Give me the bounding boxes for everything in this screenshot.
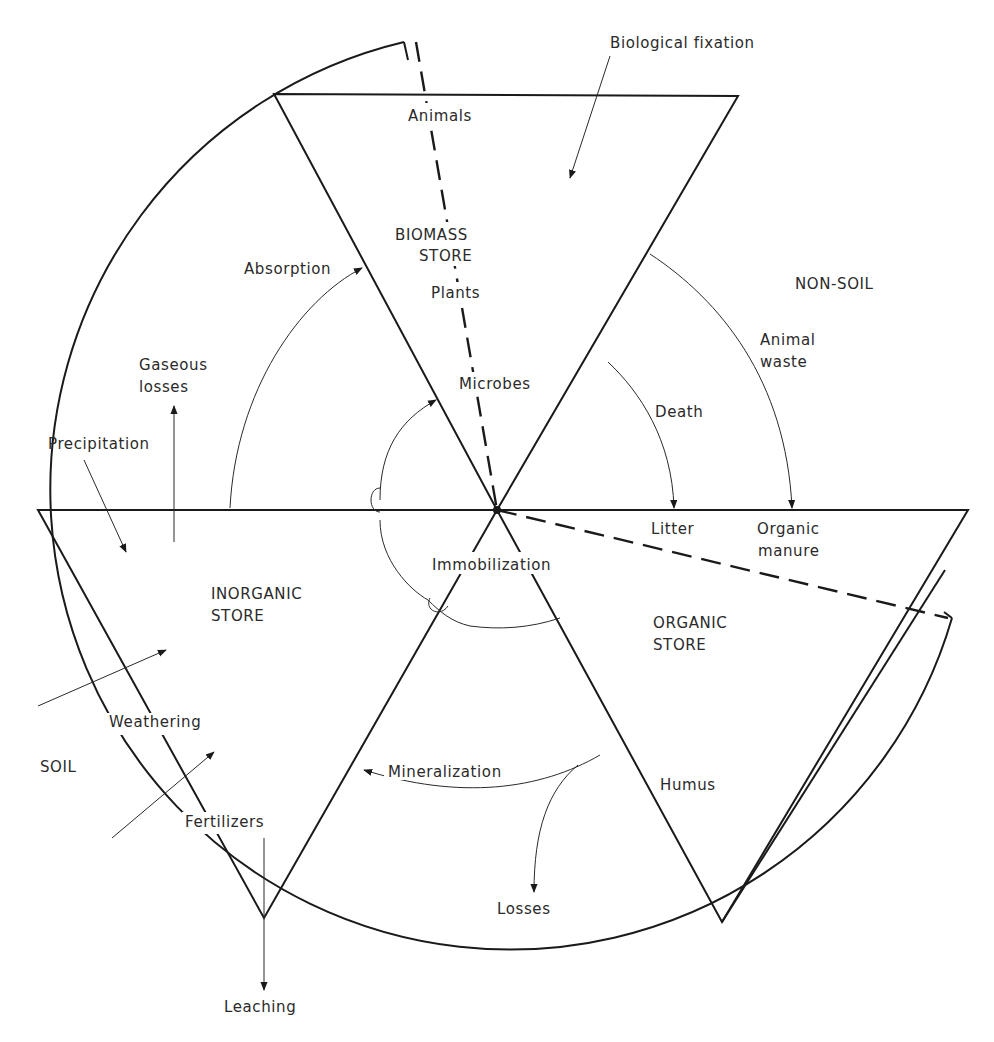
non-soil-label: NON-SOIL bbox=[795, 275, 874, 293]
precipitation-label: Precipitation bbox=[48, 435, 150, 453]
svg-text:Plants: Plants bbox=[431, 284, 480, 302]
center-node bbox=[493, 506, 501, 514]
svg-text:Weathering: Weathering bbox=[109, 713, 201, 731]
inner-loop-bump-left bbox=[371, 488, 380, 512]
immobilization-label: Immobilization bbox=[428, 552, 570, 574]
losses-label: Losses bbox=[497, 900, 551, 918]
weathering-arrow bbox=[38, 650, 166, 706]
microbe-uptake-arrow bbox=[380, 400, 436, 500]
svg-text:STORE: STORE bbox=[419, 247, 472, 265]
svg-text:Organic: Organic bbox=[757, 520, 820, 538]
biomass-store-wedge bbox=[274, 94, 738, 510]
plants-label: Plants bbox=[428, 282, 492, 302]
svg-text:Humus: Humus bbox=[660, 776, 716, 794]
animal-waste-label-1: Animal bbox=[760, 331, 816, 349]
litter-label: Litter bbox=[648, 520, 704, 540]
biomass-store-label: BIOMASS STORE bbox=[392, 222, 488, 266]
outer-boundary-end-top bbox=[404, 42, 408, 60]
organic-manure-label: Organic manure bbox=[754, 520, 834, 564]
biological-fixation-label: Biological fixation bbox=[610, 34, 755, 52]
leaching-label: Leaching bbox=[224, 998, 296, 1016]
svg-text:ORGANIC: ORGANIC bbox=[653, 614, 727, 632]
svg-text:STORE: STORE bbox=[211, 607, 264, 625]
gaseous-losses-label-2: losses bbox=[139, 378, 189, 396]
svg-text:Immobilization: Immobilization bbox=[432, 556, 551, 574]
animal-waste-arrow bbox=[650, 254, 792, 508]
nutrient-cycle-diagram: NON-SOIL SOIL BIOMASS STORE INORGANIC ST… bbox=[0, 0, 994, 1042]
humus-label: Humus bbox=[657, 774, 721, 794]
soil-label: SOIL bbox=[40, 758, 77, 776]
fertilizers-label: Fertilizers bbox=[182, 812, 276, 834]
organic-inner-edge bbox=[722, 570, 945, 922]
svg-text:manure: manure bbox=[758, 542, 819, 560]
animal-waste-label-2: waste bbox=[760, 353, 807, 371]
death-arrow bbox=[608, 362, 674, 508]
svg-text:Fertilizers: Fertilizers bbox=[185, 813, 264, 831]
absorption-label: Absorption bbox=[244, 260, 331, 278]
svg-text:STORE: STORE bbox=[653, 636, 706, 654]
mineralization-label: Mineralization bbox=[384, 760, 508, 781]
losses-arrow bbox=[534, 765, 578, 892]
inorganic-store-label: INORGANIC STORE bbox=[208, 582, 316, 626]
microbes-label: Microbes bbox=[456, 372, 546, 393]
svg-text:Mineralization: Mineralization bbox=[388, 763, 502, 781]
svg-text:INORGANIC: INORGANIC bbox=[211, 585, 302, 603]
svg-text:Animals: Animals bbox=[408, 107, 472, 125]
precipitation-arrow bbox=[84, 460, 126, 552]
gaseous-losses-label-1: Gaseous bbox=[139, 356, 208, 374]
svg-text:BIOMASS: BIOMASS bbox=[395, 226, 468, 244]
weathering-label: Weathering bbox=[106, 713, 210, 735]
animals-label: Animals bbox=[406, 103, 480, 125]
organic-store-label: ORGANIC STORE bbox=[648, 610, 730, 654]
biological-fixation-arrow bbox=[570, 56, 610, 178]
svg-text:Microbes: Microbes bbox=[459, 375, 531, 393]
absorption-arrow bbox=[230, 268, 362, 508]
svg-text:Litter: Litter bbox=[651, 520, 695, 538]
death-label: Death bbox=[655, 403, 703, 421]
